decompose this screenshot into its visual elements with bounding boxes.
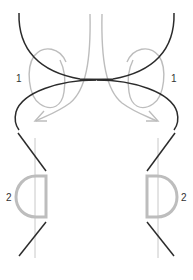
dark-strand-lower-left [15, 80, 96, 130]
diagram-canvas: 1 1 2 2 [0, 0, 193, 280]
label-step2-right: 2 [181, 192, 187, 203]
top-panel: 1 1 [15, 13, 178, 130]
dark-diagonal-left-upper [18, 133, 46, 171]
dark-strand-top-left [19, 13, 113, 80]
dark-diagonal-right-upper [147, 133, 175, 171]
dark-diagonal-left-lower [19, 222, 46, 256]
label-step1-left: 1 [16, 73, 22, 84]
d-loop-left [16, 176, 46, 217]
dark-strand-top-right [80, 13, 174, 80]
label-step1-right: 1 [171, 73, 177, 84]
label-step2-left: 2 [6, 192, 12, 203]
dark-diagonal-right-lower [147, 222, 174, 256]
bottom-panel: 2 2 [6, 133, 187, 258]
d-loop-right [147, 176, 177, 217]
dark-strand-lower-right [97, 80, 178, 130]
